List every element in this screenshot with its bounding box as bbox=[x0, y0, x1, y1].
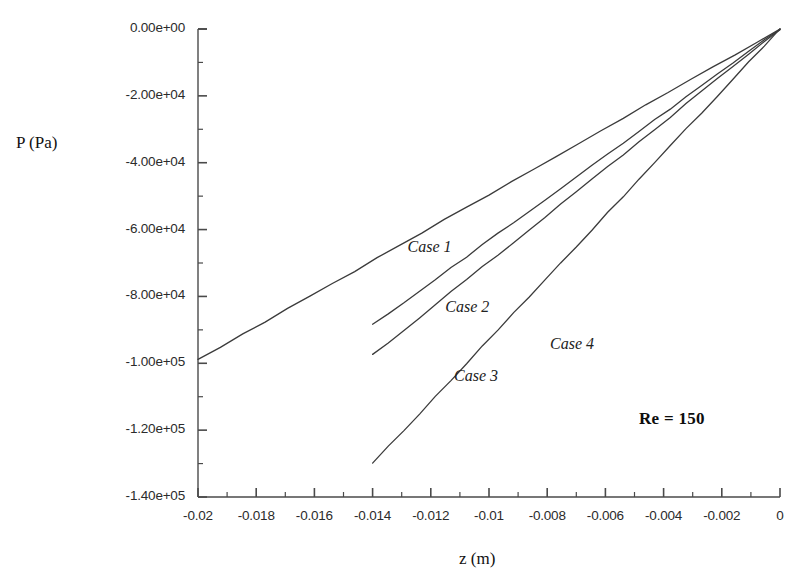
reynolds-number-annotation: Re = 150 bbox=[639, 409, 705, 429]
series-label-1: Case 1 bbox=[408, 238, 452, 256]
y-tick-label: -2.00e+04 bbox=[126, 87, 185, 102]
series-line-3 bbox=[373, 30, 780, 355]
y-tick-label: 0.00e+00 bbox=[130, 20, 185, 35]
series-label-3: Case 3 bbox=[454, 367, 498, 385]
y-axis-title: P (Pa) bbox=[16, 133, 57, 153]
x-tick-label: 0 bbox=[740, 508, 807, 523]
y-tick-label: -6.00e+04 bbox=[126, 221, 185, 236]
series-label-4: Case 4 bbox=[550, 335, 594, 353]
y-tick-label: -4.00e+04 bbox=[126, 154, 185, 169]
plot-canvas bbox=[0, 0, 807, 588]
series-label-2: Case 2 bbox=[445, 298, 489, 316]
y-tick-label: -1.20e+05 bbox=[126, 421, 185, 436]
y-tick-label: -1.00e+05 bbox=[126, 354, 185, 369]
y-tick-label: -1.40e+05 bbox=[126, 488, 185, 503]
series-line-2 bbox=[373, 29, 780, 324]
x-axis-title: z (m) bbox=[459, 549, 495, 569]
pressure-vs-z-chart: P (Pa) z (m) 0.00e+00-2.00e+04-4.00e+04-… bbox=[0, 0, 807, 588]
y-tick-label: -8.00e+04 bbox=[126, 287, 185, 302]
